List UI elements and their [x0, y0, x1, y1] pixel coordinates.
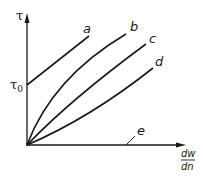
curve-a [27, 36, 89, 85]
y-intercept-label: τ0 [10, 77, 23, 94]
curve-a-label: a [83, 21, 91, 36]
y-axis-label: τ [16, 8, 23, 23]
diagram-canvas: τ dw dn τ0 a b c d e [0, 0, 203, 178]
x-axis [27, 143, 186, 148]
x-axis-label: dw dn [181, 148, 196, 172]
curve-b-label: b [130, 19, 138, 34]
y-axis [25, 13, 30, 146]
y-axis-arrow-icon [25, 13, 30, 23]
curve-e-label: e [137, 123, 145, 138]
curve-b [27, 34, 126, 145]
curve-c [27, 44, 146, 145]
curve-e-leader [126, 136, 135, 145]
curve-d-label: d [155, 54, 164, 69]
x-axis-label-numerator: dw [181, 148, 196, 159]
origin-point [26, 142, 30, 146]
x-axis-arrow-icon [176, 143, 186, 148]
curve-c-label: c [149, 31, 156, 46]
x-axis-label-denominator: dn [181, 161, 194, 172]
